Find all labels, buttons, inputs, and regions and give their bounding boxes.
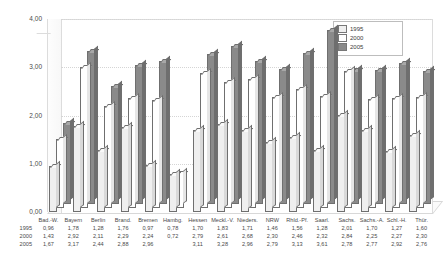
table-column-header: Hessen [185, 216, 210, 224]
bar-1995 [337, 115, 345, 212]
table-column-header: Bayern [61, 216, 86, 224]
table-cell: 1,46 [260, 224, 285, 232]
table-cell: 2,78 [335, 240, 360, 248]
bar-side-face [272, 136, 276, 208]
table-cell: 2,76 [409, 240, 434, 248]
table-column-header: Bad.-W. [36, 216, 61, 224]
legend-label: 2005 [350, 43, 363, 51]
table-cell: 1,43 [36, 232, 61, 240]
table-cell: 2,96 [235, 240, 260, 248]
legend: 1995 2000 2005 [333, 21, 403, 56]
table-cell: 2,24 [136, 232, 161, 240]
table-column-header: Bremen [136, 216, 161, 224]
table-column-header: Nieders. [235, 216, 260, 224]
table-cell: 2,79 [185, 232, 210, 240]
legend-swatch-icon [338, 25, 347, 33]
bar-side-face [399, 93, 403, 204]
bar-side-face [135, 92, 139, 204]
bar-1995 [121, 127, 129, 212]
bar-side-face [224, 119, 228, 208]
table-cell: 0,97 [136, 224, 161, 232]
bar-1995 [241, 130, 249, 213]
table-cell: 2,11 [86, 232, 111, 240]
bar-side-face [200, 125, 204, 208]
bar-1995 [145, 165, 153, 212]
bar-side-face [56, 161, 60, 208]
y-axis-tick-label: 3,00 [0, 63, 42, 70]
table-header-row: Bad.-W.BayernBerlinBrand.BremenHambg.Hes… [8, 216, 434, 224]
bar-side-face [159, 95, 163, 204]
table-cell: 1,78 [61, 224, 86, 232]
table-cell: 2,84 [335, 232, 360, 240]
table-column-header: NRW [260, 216, 285, 224]
table-cell: 3,61 [310, 240, 335, 248]
legend-label: 2000 [350, 34, 363, 42]
bar-side-face [375, 94, 379, 204]
table-cell: 1,83 [210, 224, 235, 232]
bar-side-face [320, 145, 324, 208]
bar-side-face [248, 124, 252, 208]
bar-1995 [361, 130, 369, 212]
table-cell: 1,28 [86, 224, 111, 232]
bar-group [119, 19, 143, 212]
table-cell: 2,30 [409, 232, 434, 240]
table-cell: 1,70 [359, 224, 384, 232]
table-column-header: Brand. [111, 216, 136, 224]
table-body: 19950,961,781,281,760,970,781,701,831,71… [8, 224, 434, 248]
bar-side-face [176, 169, 180, 208]
bar-side-face [368, 125, 372, 208]
bar-side-face [303, 84, 307, 204]
table-column-header: Rhld.-Pf. [285, 216, 310, 224]
y-axis-tick-label: 4,00 [0, 15, 42, 22]
bar-side-face [87, 62, 91, 204]
bar-group [143, 19, 167, 212]
data-table: Bad.-W.BayernBerlinBrand.BremenHambg.Hes… [8, 216, 434, 248]
table-cell: 2,92 [384, 240, 409, 248]
bar-group [263, 19, 287, 212]
table-cell: 2,25 [359, 232, 384, 240]
bar-group [239, 19, 263, 212]
bar-side-face [231, 77, 235, 204]
table-cell: 2,27 [384, 232, 409, 240]
bar-1995 [265, 142, 273, 212]
bar-side-face [104, 145, 108, 208]
table-column-header: Thür. [409, 216, 434, 224]
bar-group [71, 19, 95, 212]
bar-1995 [313, 150, 321, 212]
bar-group [407, 19, 431, 212]
table-row: 20051,673,172,442,882,963,113,282,962,79… [8, 240, 434, 248]
bar-group [95, 19, 119, 212]
bar-side-face [423, 92, 427, 204]
legend-swatch-icon [338, 34, 347, 42]
bar-side-face [351, 66, 355, 204]
table-row-header: 2000 [8, 232, 36, 240]
bar-side-face [152, 160, 156, 208]
bar-side-face [183, 168, 187, 204]
table-cell [160, 240, 185, 248]
table-cell: 2,30 [260, 232, 285, 240]
table-cell: 3,13 [285, 240, 310, 248]
table-column-header: Sachs. [335, 216, 360, 224]
table-cell: 1,28 [310, 224, 335, 232]
bar-1995 [193, 130, 201, 212]
bar-side-face [207, 68, 211, 204]
bar-group [167, 19, 191, 212]
table-row-header: 1995 [8, 224, 36, 232]
bar-side-face [279, 92, 283, 204]
bar-side-face [80, 121, 84, 208]
bar-1995 [169, 174, 177, 212]
plot-area: 0,001,002,003,004,00 1995 2000 2005 [0, 0, 438, 216]
table-cell: 0,78 [160, 224, 185, 232]
table-column-header: Sachs.-A. [359, 216, 384, 224]
bar-side-face [296, 132, 300, 208]
legend-item-2000: 2000 [338, 34, 398, 42]
table-column-header: Saarl. [310, 216, 335, 224]
table-cell: 1,67 [36, 240, 61, 248]
bar-group [215, 19, 239, 212]
table-column-header: Meckl.-V. [210, 216, 235, 224]
table-cell: 3,11 [185, 240, 210, 248]
bar-group [47, 19, 71, 212]
table-cell: 1,27 [384, 224, 409, 232]
table-cell: 2,96 [136, 240, 161, 248]
